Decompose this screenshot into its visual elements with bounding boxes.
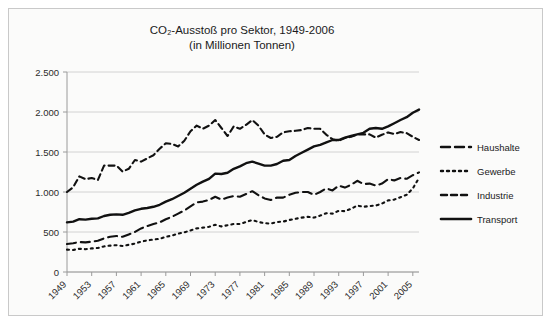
x-tick-label: 1973	[194, 279, 217, 302]
series-line-haushalte	[67, 172, 419, 244]
x-tick-label: 2005	[392, 279, 415, 302]
x-tick-label: 1969	[169, 279, 192, 302]
legend-label-transport: Transport	[477, 214, 518, 225]
x-tick-label: 1961	[120, 279, 143, 302]
x-tick-label: 1953	[70, 279, 93, 302]
legend-label-gewerbe: Gewerbe	[477, 166, 516, 177]
co2-line-chart: CO₂-Ausstoß pro Sektor, 1949-2006 (in Mi…	[9, 9, 542, 315]
y-tick-label: 0	[54, 267, 59, 278]
x-axis-tick-labels: 1949195319571961196519691973197719811985…	[46, 279, 415, 302]
y-tick-label: 2.000	[35, 107, 59, 118]
x-tick-label: 1993	[317, 279, 340, 302]
legend-label-haushalte: Haushalte	[477, 142, 520, 153]
chart-title-line1: CO₂-Ausstoß pro Sektor, 1949-2006	[150, 24, 335, 36]
y-tick-label: 500	[43, 227, 59, 238]
x-tick-label: 1989	[293, 279, 316, 302]
chart-title-line2: (in Millionen Tonnen)	[189, 39, 295, 51]
y-tick-label: 1.000	[35, 187, 59, 198]
gridlines	[63, 72, 419, 272]
x-tick-label: 1965	[144, 279, 167, 302]
x-tick-label: 1949	[46, 279, 69, 302]
x-tick-label: 1997	[342, 279, 365, 302]
chart-legend: HaushalteGewerbeIndustrieTransport	[441, 142, 520, 225]
x-tick-label: 1981	[243, 279, 266, 302]
data-series	[67, 110, 419, 250]
legend-label-industrie: Industrie	[477, 190, 513, 201]
y-tick-label: 2.500	[35, 67, 59, 78]
chart-figure: CO₂-Ausstoß pro Sektor, 1949-2006 (in Mi…	[8, 8, 543, 316]
x-axis-tick-marks	[67, 272, 413, 276]
x-tick-label: 1985	[268, 279, 291, 302]
x-tick-label: 2001	[367, 279, 390, 302]
y-axis-tick-labels: 05001.0001.5002.0002.500	[35, 67, 59, 278]
x-tick-label: 1977	[219, 279, 242, 302]
y-tick-label: 1.500	[35, 147, 59, 158]
x-tick-label: 1957	[95, 279, 118, 302]
